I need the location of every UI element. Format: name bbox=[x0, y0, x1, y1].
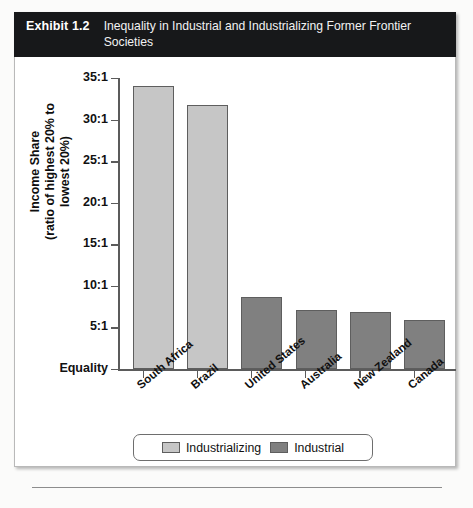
y-axis-tick bbox=[111, 120, 119, 121]
y-axis-tick bbox=[111, 78, 119, 79]
bar-chart: Income Share (ratio of highest 20% to lo… bbox=[14, 57, 456, 467]
page-bottom-rule bbox=[32, 487, 442, 488]
exhibit-header: Exhibit 1.2 Inequality in Industrial and… bbox=[14, 12, 456, 57]
chart-legend: Industrializing Industrial bbox=[133, 434, 373, 461]
legend-entry-industrializing: Industrializing bbox=[162, 441, 261, 455]
y-axis-tick-label: Equality bbox=[42, 361, 108, 375]
y-axis-tick-label: 15:1 bbox=[42, 236, 108, 250]
exhibit-number-label: Exhibit 1.2 bbox=[26, 19, 90, 33]
y-axis-tick bbox=[111, 161, 119, 162]
y-axis-title-line1: Income Share bbox=[28, 87, 43, 257]
exhibit-title: Inequality in Industrial and Industriali… bbox=[104, 19, 434, 50]
y-axis-tick-label: 35:1 bbox=[42, 70, 108, 84]
y-axis-line bbox=[118, 78, 120, 370]
page-background: Exhibit 1.2 Inequality in Industrial and… bbox=[0, 0, 473, 508]
bar bbox=[133, 86, 174, 369]
x-axis-line bbox=[118, 369, 456, 371]
y-axis-tick bbox=[111, 327, 119, 328]
legend-label-industrializing: Industrializing bbox=[186, 441, 261, 455]
y-axis-tick bbox=[111, 369, 119, 370]
bar bbox=[187, 105, 228, 369]
legend-label-industrial: Industrial bbox=[294, 441, 344, 455]
legend-entry-industrial: Industrial bbox=[270, 441, 344, 455]
y-axis-tick bbox=[111, 286, 119, 287]
y-axis-tick bbox=[111, 203, 119, 204]
y-axis-tick-label: 10:1 bbox=[42, 278, 108, 292]
y-axis-tick-label: 20:1 bbox=[42, 195, 108, 209]
y-axis-tick bbox=[111, 244, 119, 245]
y-axis-tick-label: 25:1 bbox=[42, 153, 108, 167]
y-axis-tick-label: 5:1 bbox=[42, 319, 108, 333]
legend-swatch-industrializing bbox=[162, 442, 180, 453]
legend-swatch-industrial bbox=[270, 442, 288, 453]
y-axis-tick-label: 30:1 bbox=[42, 112, 108, 126]
